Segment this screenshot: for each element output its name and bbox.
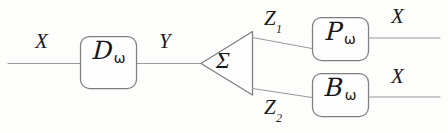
- edge-label-z1: Z1: [264, 8, 282, 32]
- node-symbol-predictor: P: [325, 17, 343, 46]
- node-label-decoder: Dω: [80, 36, 137, 89]
- edge-label-output-x-bottom: X: [391, 66, 404, 87]
- node-symbol-backward: B: [325, 73, 345, 102]
- edge-label-output-x-top: X: [391, 6, 404, 27]
- node-label-summer: Σ: [204, 47, 242, 80]
- block-diagram: X Y Z1 Z2 X X Dω Σ Pω Bω: [0, 0, 448, 133]
- node-symbol-decoder: D: [92, 36, 114, 65]
- node-subscript-predictor: ω: [344, 31, 356, 47]
- edge-label-z1-base: Z: [264, 6, 276, 30]
- node-subscript-decoder: ω: [114, 50, 126, 66]
- node-label-predictor: Pω: [312, 17, 369, 61]
- edge-label-z1-subscript: 1: [276, 22, 282, 36]
- edge-label-z2-subscript: 2: [276, 111, 282, 125]
- edge-label-z2-base: Z: [264, 95, 276, 119]
- edge-label-input-x: X: [35, 31, 48, 52]
- wire-z1: [253, 38, 313, 49]
- edge-label-y: Y: [159, 31, 171, 52]
- edge-label-z2: Z2: [264, 97, 282, 121]
- node-subscript-backward: ω: [345, 87, 357, 103]
- node-label-backward: Bω: [312, 73, 369, 117]
- node-symbol-summer: Σ: [216, 47, 230, 74]
